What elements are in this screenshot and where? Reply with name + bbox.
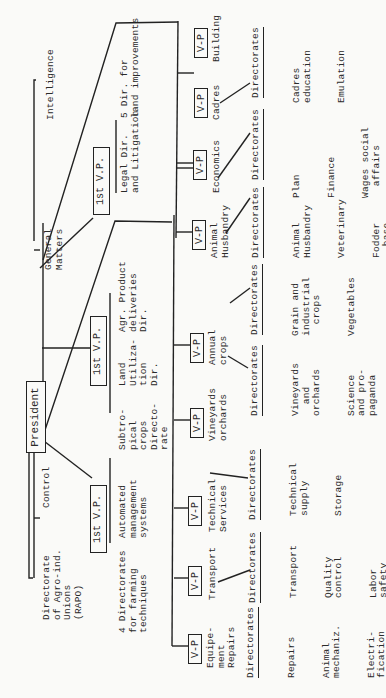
dir-item: Vineyards and orchards <box>291 363 323 416</box>
dir-list-vineyards: Vineyards and orchards Science and pro- … <box>270 363 386 416</box>
dir-item: Vegetables <box>347 277 358 336</box>
dir-item: Storage <box>334 463 345 516</box>
first-vp-box-right: 1st V.P. <box>93 147 110 215</box>
vp-title-technical: Technical Services <box>208 479 229 532</box>
unit-land-utilization: Land Utiliza- tion Dir. <box>118 339 160 386</box>
dir-item: Electri- fication <box>367 625 386 678</box>
dir-item: Grain and industrial crops <box>291 277 323 336</box>
dir-item: Animal Husbandry <box>292 199 313 258</box>
dir-header-equipment: Directorates <box>246 607 259 678</box>
unit-subtropical: Subtro- pical crops Directo- rate <box>118 403 171 450</box>
vp-box-technical: V-P <box>188 496 202 526</box>
dir-item: Plan <box>292 115 303 198</box>
staff-control: Control <box>42 467 53 508</box>
dir-header-annual: Directorates <box>250 264 263 335</box>
unit-5-dir: 5 Dir. for land improvements <box>120 18 141 118</box>
unit-agr-product: Agr. Product deliveries Dir. <box>118 261 150 332</box>
dir-item: Repairs <box>287 625 298 678</box>
vp-title-transport: Transport <box>208 547 219 600</box>
dir-item: Cadres education <box>292 50 313 103</box>
diag-economics <box>218 133 250 178</box>
dir-item: Technical supply <box>289 463 310 516</box>
staff-line-intelligence <box>34 80 36 241</box>
dir-header-animal: Directorates <box>251 187 264 258</box>
dir-item: Transport <box>289 545 300 598</box>
staff-general-matters: General Matters <box>44 229 65 270</box>
vp-title-building: Building <box>212 15 223 62</box>
dir-header-cadres: Directorates <box>251 27 264 98</box>
dir-list-technical: Technical supply Storage <box>268 463 369 516</box>
vp-trunk-left <box>172 215 174 646</box>
dir-header-transport: Directorates <box>248 532 261 603</box>
vp-box-economics: V-P <box>193 150 207 180</box>
president-box: President <box>26 381 46 453</box>
dir-list-economics: Plan Finance Wages social affairs Accoun… <box>271 115 386 198</box>
unit-legal: Legal Dir. and Litigation <box>120 110 141 193</box>
staff-line-rapo <box>29 450 33 578</box>
dir-header-vineyards: Directorates <box>250 345 263 416</box>
vp-box-vineyards: V-P <box>190 408 204 438</box>
dir-item: Wages social affairs <box>361 115 382 198</box>
dir-item: Finance <box>327 115 338 198</box>
vp-title-vineyards: Vineyards orchards <box>208 388 229 441</box>
diag-transport <box>218 570 250 582</box>
staff-intelligence: Intelligence <box>46 49 57 120</box>
dir-item: Quality control <box>324 545 345 598</box>
vp-trunk-right <box>176 21 178 238</box>
dir-list-annual: Grain and industrial crops Vegetables <box>270 277 381 336</box>
diag-annual <box>230 288 250 303</box>
vp-title-annual: Annual crops <box>208 330 229 365</box>
dir-header-technical: Directorates <box>248 449 261 520</box>
dir-item: Labor safety <box>369 545 386 598</box>
dir-item: Animal mechaniz. <box>322 625 343 678</box>
first-vp-box-mid: 1st V.P. <box>90 316 107 386</box>
dir-item: Veterinary <box>337 199 348 258</box>
diag-cadres <box>220 83 250 103</box>
diag-technical <box>210 473 248 478</box>
vp-title-equipment: Equipe- ment Repairs <box>206 627 238 668</box>
vp-title-economics: Economics <box>212 140 223 193</box>
dir-list-cadres: Cadres education Emulation <box>271 50 372 103</box>
org-chart-page: President Control General Matters Intell… <box>0 0 386 698</box>
vp-box-transport: V-P <box>188 566 202 596</box>
unit-4-directorates: 4 Directorates for farming techniques <box>118 550 150 633</box>
dir-list-transport: Transport Quality control Labor safety <box>268 545 386 598</box>
dir-list-equipment: Repairs Animal mechaniz. Electri- ficati… <box>266 625 386 678</box>
vp-title-cadres: Cadres <box>212 85 223 120</box>
dir-header-economics: Directorates <box>251 109 264 180</box>
dir-item: Emulation <box>337 50 348 103</box>
vp-box-annual: V-P <box>190 333 204 363</box>
vp-box-cadres: V-P <box>194 88 208 118</box>
staff-rapo: Directorate of Agro-ind. Unions (RAPO) <box>42 549 84 620</box>
dir-item: Science and pro- paganda <box>347 363 379 416</box>
vp-box-animal: V-P <box>192 220 206 250</box>
dir-list-animal: Animal Husbandry Veterinary Fodder base <box>271 199 386 258</box>
diag-vineyards <box>228 356 248 368</box>
unit-automated-mgmt: Automated management systems <box>118 479 150 538</box>
vp-title-animal: Animal Husbandry <box>210 205 231 258</box>
dir-item: Fodder base <box>372 199 386 258</box>
line-pres-vp-trunk-right-diag <box>43 22 178 260</box>
vp-box-building: V-P <box>194 28 208 58</box>
vp-box-equipment: V-P <box>188 634 202 664</box>
first-vp-box-left: 1st V.P. <box>90 485 107 553</box>
